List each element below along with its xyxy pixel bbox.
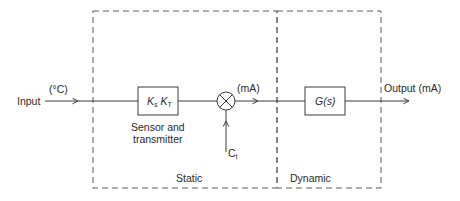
block-diagram: Input (°C) KsKT Sensor and transmitter C… [0, 0, 460, 201]
ct-label: Ct [228, 147, 238, 160]
dynamic-region-label: Dynamic [290, 172, 331, 184]
input-label: Input [17, 95, 40, 107]
static-region-boundary [93, 11, 277, 188]
sensor-caption-line2: transmitter [133, 133, 183, 145]
sensor-transmitter-block: KsKT [138, 87, 178, 115]
static-region-label: Static [176, 172, 202, 184]
sensor-caption-line1: Sensor and [131, 121, 185, 133]
input-unit: (°C) [49, 83, 68, 95]
junction-output-unit: (mA) [237, 82, 260, 94]
dynamic-transfer-block: G(s) [305, 87, 345, 115]
output-label: Output (mA) [384, 82, 441, 94]
sensor-gain-label: KsKT [147, 95, 173, 108]
transfer-function-label: G(s) [315, 95, 335, 107]
diagram-canvas: Input (°C) KsKT Sensor and transmitter C… [0, 0, 460, 201]
summing-junction-icon [217, 92, 235, 110]
